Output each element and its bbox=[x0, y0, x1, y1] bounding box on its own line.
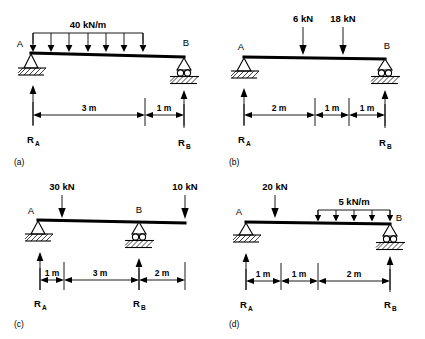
udl-load-group-d: 5 kN/m bbox=[315, 196, 393, 222]
node-label-c-left: A bbox=[28, 205, 35, 216]
roller-support-b bbox=[371, 59, 400, 84]
point-load-label-b-2: 18 kN bbox=[330, 13, 355, 24]
point-load-label-b-1: 6 kN bbox=[293, 13, 313, 24]
beam-c bbox=[38, 220, 185, 223]
panel-d: 20 kN 5 kN/m A B bbox=[215, 170, 425, 339]
panel-c: 30 kN 10 kN A B bbox=[0, 170, 215, 339]
panel-caption-b: (b) bbox=[229, 157, 240, 167]
svg-text:B: B bbox=[141, 304, 146, 311]
udl-load-group-a: 40 kN/m bbox=[30, 19, 147, 52]
panel-caption-a: (a) bbox=[14, 157, 25, 167]
roller-support-c bbox=[125, 222, 154, 248]
svg-text:B: B bbox=[387, 143, 392, 150]
node-label-d-left: A bbox=[236, 206, 243, 217]
point-load-c-1: 30 kN bbox=[49, 181, 74, 218]
dimension-group-c: 1 m 3 m 2 m bbox=[40, 262, 185, 290]
pin-support-d bbox=[233, 223, 261, 242]
panel-a: 40 kN/m A B bbox=[0, 0, 215, 175]
dimension-label-d-3: 2 m bbox=[347, 269, 362, 279]
dimension-label-d-2: 1 m bbox=[292, 269, 307, 279]
svg-text:R: R bbox=[34, 298, 41, 309]
node-label-c-right: B bbox=[136, 204, 142, 215]
dimension-label-c-3: 2 m bbox=[155, 268, 170, 278]
reaction-label-d-right: R B bbox=[384, 299, 397, 312]
svg-text:A: A bbox=[246, 140, 251, 147]
node-label-b-left: A bbox=[238, 41, 245, 52]
reaction-label-b-left: R A bbox=[238, 134, 251, 147]
dimension-label-c-2: 3 m bbox=[93, 268, 108, 278]
pin-support-a bbox=[18, 54, 46, 75]
node-label-d-right: B bbox=[396, 212, 402, 223]
svg-text:R: R bbox=[384, 299, 391, 310]
svg-text:B: B bbox=[186, 143, 191, 150]
panel-caption-d: (d) bbox=[229, 319, 240, 329]
svg-text:R: R bbox=[240, 299, 247, 310]
dimension-label-b-2: 1 m bbox=[325, 103, 340, 113]
udl-label-a: 40 kN/m bbox=[70, 19, 106, 30]
beam-d bbox=[246, 222, 390, 224]
svg-text:A: A bbox=[248, 305, 253, 312]
point-load-d-1: 20 kN bbox=[262, 181, 287, 218]
dimension-label-c-1: 1 m bbox=[45, 268, 60, 278]
reaction-label-c-left: R A bbox=[34, 298, 47, 311]
svg-text:R: R bbox=[178, 137, 185, 148]
point-load-label-c-1: 30 kN bbox=[49, 181, 74, 192]
point-load-b-1: 6 kN bbox=[293, 13, 313, 55]
point-load-label-d-1: 20 kN bbox=[262, 181, 287, 192]
roller-support-d bbox=[376, 224, 405, 250]
roller-support-a bbox=[170, 58, 199, 84]
dimension-group-d: 1 m 1 m 2 m bbox=[246, 263, 390, 290]
reaction-label-b-right: R B bbox=[379, 137, 392, 150]
svg-text:R: R bbox=[238, 134, 245, 145]
dimension-label-b-3: 1 m bbox=[360, 103, 375, 113]
reaction-label-d-left: R A bbox=[240, 299, 253, 312]
panel-b: 6 kN 18 kN A B bbox=[215, 0, 425, 175]
dimension-group-b: 2 m 1 m 1 m bbox=[244, 98, 385, 126]
dimension-label-a-2: 1 m bbox=[157, 103, 172, 113]
point-load-label-c-2: 10 kN bbox=[172, 181, 197, 192]
svg-text:B: B bbox=[392, 305, 397, 312]
dimension-label-b-1: 2 m bbox=[272, 103, 287, 113]
beam-diagram-figure: 40 kN/m A B bbox=[0, 0, 425, 339]
udl-label-d: 5 kN/m bbox=[338, 196, 369, 207]
svg-text:A: A bbox=[35, 140, 40, 147]
pin-support-c bbox=[25, 221, 53, 241]
point-load-b-2: 18 kN bbox=[330, 13, 355, 55]
svg-text:A: A bbox=[42, 304, 47, 311]
node-label-a-right: B bbox=[183, 37, 189, 48]
svg-text:R: R bbox=[27, 134, 34, 145]
point-load-c-2: 10 kN bbox=[172, 181, 197, 219]
panel-caption-c: (c) bbox=[14, 319, 24, 329]
beam-b bbox=[244, 57, 385, 59]
reaction-label-a-left: R A bbox=[27, 134, 40, 147]
dimension-label-d-1: 1 m bbox=[256, 269, 271, 279]
reaction-label-a-right: R B bbox=[178, 137, 191, 150]
reaction-label-c-right: R B bbox=[133, 298, 146, 311]
beam-a bbox=[31, 53, 184, 57]
dimension-group-a: 3 m 1 m bbox=[33, 98, 184, 126]
svg-text:R: R bbox=[379, 137, 386, 148]
node-label-a-left: A bbox=[17, 38, 24, 49]
node-label-b-right: B bbox=[384, 40, 390, 51]
pin-support-b bbox=[231, 58, 259, 78]
svg-text:R: R bbox=[133, 298, 140, 309]
dimension-label-a-1: 3 m bbox=[82, 103, 97, 113]
